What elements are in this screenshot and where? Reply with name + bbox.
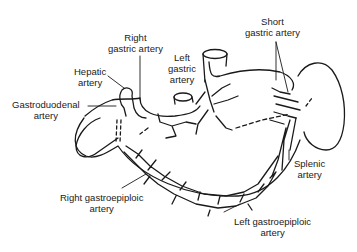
label-gastroduodenal-artery: Gastroduodenal artery bbox=[12, 99, 80, 121]
label-line: artery bbox=[168, 74, 196, 85]
label-line: Left bbox=[168, 52, 196, 63]
label-hepatic-artery: Hepatic artery bbox=[74, 66, 106, 88]
splenic-artery-line bbox=[272, 118, 296, 176]
esophagus-opening bbox=[203, 50, 227, 59]
label-line: artery bbox=[60, 203, 143, 214]
label-line: gastric bbox=[168, 63, 196, 74]
duodenum-dashes bbox=[116, 120, 121, 142]
label-line: artery bbox=[74, 77, 106, 88]
label-right-gastroepiploic-artery: Right gastroepiploic artery bbox=[60, 192, 143, 214]
label-line: Splenic bbox=[294, 158, 325, 169]
spleen-dashes bbox=[306, 98, 312, 106]
label-line: gastric artery bbox=[108, 43, 163, 54]
hepatic-trunk bbox=[120, 88, 146, 118]
duodenum bbox=[76, 118, 118, 157]
vessel-stump bbox=[174, 93, 192, 101]
label-line: Left gastroepiploic bbox=[234, 216, 311, 227]
label-short-gastric-artery: Short gastric artery bbox=[245, 16, 300, 38]
internal-dashed-line bbox=[140, 114, 290, 134]
spleen bbox=[298, 63, 345, 150]
label-line: Right bbox=[108, 32, 163, 43]
gastroepiploic-arcade bbox=[124, 146, 278, 216]
label-line: Short bbox=[245, 16, 300, 27]
label-splenic-artery: Splenic artery bbox=[294, 158, 325, 180]
label-line: artery bbox=[12, 110, 80, 121]
label-right-gastric-artery: Right gastric artery bbox=[108, 32, 163, 54]
leader-hepatic bbox=[108, 76, 124, 88]
label-line: Gastroduodenal bbox=[12, 99, 80, 110]
leader-left-gastroepiploic bbox=[224, 204, 240, 212]
label-line: gastric artery bbox=[245, 27, 300, 38]
label-line: Hepatic bbox=[74, 66, 106, 77]
label-left-gastric-artery: Left gastric artery bbox=[168, 52, 196, 85]
leader-right-gastroepiploic bbox=[122, 174, 146, 188]
leader-short-gastric-2 bbox=[276, 42, 288, 92]
label-left-gastroepiploic-artery: Left gastroepiploic artery bbox=[234, 216, 311, 238]
label-line: artery bbox=[234, 227, 311, 238]
label-line: artery bbox=[294, 169, 325, 180]
stomach-arteries-diagram bbox=[0, 0, 357, 252]
label-line: Right gastroepiploic bbox=[60, 192, 143, 203]
